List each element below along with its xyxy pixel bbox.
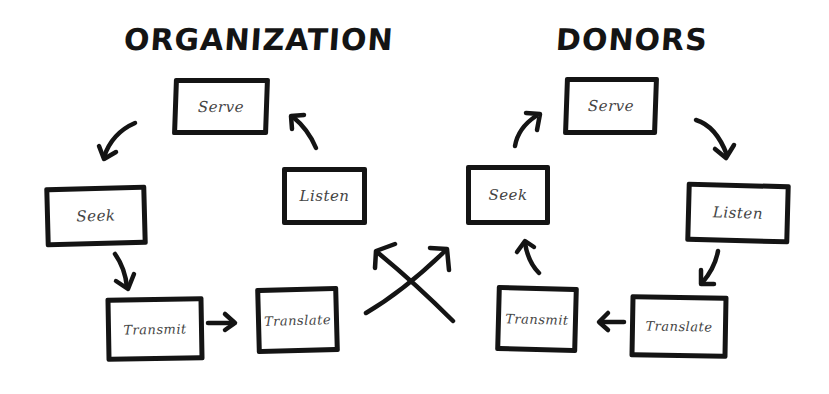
arrows-layer — [0, 0, 829, 394]
arrow-donors-listen-to-translate-icon — [701, 251, 718, 284]
arrow-org-transmit-to-translate-icon — [208, 314, 235, 330]
arrow-donors-seek-to-serve-icon — [515, 113, 540, 146]
arrow-org-serve-to-seek-icon — [99, 123, 135, 159]
arrow-org-listen-to-serve-icon — [291, 115, 316, 148]
crossed-arrows-icon — [366, 244, 453, 321]
arrow-donors-serve-to-listen-icon — [696, 120, 734, 158]
arrow-org-seek-to-transmit-icon — [115, 254, 134, 289]
arrow-donors-translate-to-transmit-icon — [599, 313, 624, 330]
arrow-donors-transmit-to-seek-icon — [517, 241, 539, 273]
diagram-canvas: ORGANIZATION DONORS Serve Seek Transmit … — [0, 0, 829, 394]
